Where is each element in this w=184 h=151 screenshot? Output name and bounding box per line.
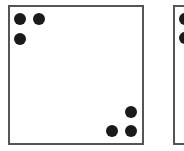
dot-icon	[125, 125, 137, 137]
dot-icon	[33, 13, 45, 25]
dot-icon	[179, 32, 184, 44]
dot-icon	[14, 13, 26, 25]
dot-icon	[179, 13, 184, 25]
dot-icon	[125, 106, 137, 118]
dot-icon	[106, 125, 118, 137]
square-panel-1	[8, 5, 144, 145]
dot-icon	[14, 33, 26, 45]
square-panel-2	[173, 5, 184, 145]
